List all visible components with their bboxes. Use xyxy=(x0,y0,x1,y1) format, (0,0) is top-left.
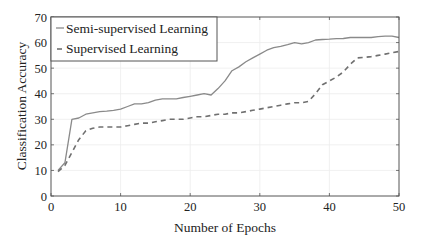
legend: Semi-supervised Learning Supervised Lear… xyxy=(51,17,217,61)
legend-label-semi-supervised: Semi-supervised Learning xyxy=(66,21,208,36)
supervised-line xyxy=(58,52,399,172)
x-tick-label: 0 xyxy=(48,200,54,214)
x-axis-label: Number of Epochs xyxy=(174,220,276,235)
y-tick-label: 10 xyxy=(35,164,48,178)
x-tick-label: 10 xyxy=(114,200,127,214)
y-tick-label: 20 xyxy=(35,138,48,152)
x-tick-label: 20 xyxy=(184,200,197,214)
x-tick-label: 50 xyxy=(393,200,406,214)
y-axis-label: Classification Accuracy xyxy=(14,41,29,170)
x-tick-label: 30 xyxy=(254,200,267,214)
line-chart: 01020304050010203040506070 Number of Epo… xyxy=(0,0,424,240)
y-tick-label: 60 xyxy=(35,36,48,50)
legend-label-supervised: Supervised Learning xyxy=(66,41,178,56)
y-tick-label: 70 xyxy=(35,11,48,25)
x-tick-label: 40 xyxy=(323,200,336,214)
y-tick-label: 40 xyxy=(35,87,48,101)
y-tick-label: 30 xyxy=(35,113,48,127)
y-tick-label: 50 xyxy=(35,62,48,76)
y-tick-label: 0 xyxy=(41,190,47,204)
